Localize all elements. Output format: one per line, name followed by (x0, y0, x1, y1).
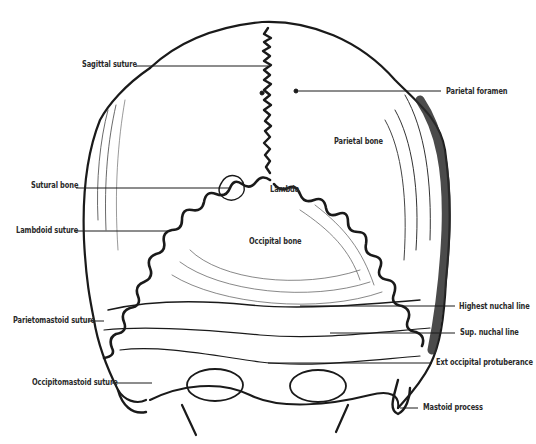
label-sagittal-suture: Sagittal suture (82, 59, 137, 69)
skull-diagram: Sagittal suture Parietal foramen Parieta… (0, 0, 536, 444)
label-highest-nuchal-line: Highest nuchal line (459, 301, 530, 311)
label-parietomastoid-suture: Parietomastoid suture (13, 315, 95, 325)
label-lambdoid-suture: Lambdoid suture (16, 225, 78, 235)
label-lambda: Lambda (270, 184, 299, 194)
label-parietal-foramen: Parietal foramen (446, 86, 508, 96)
label-sup-nuchal-line: Sup. nuchal line (460, 327, 519, 337)
label-mastoid-process: Mastoid process (423, 402, 483, 412)
label-ext-occipital-protuberance: Ext occipital protuberance (436, 357, 533, 367)
label-sutural-bone: Sutural bone (31, 180, 78, 190)
label-parietal-bone: Parietal bone (334, 136, 383, 146)
label-occipitomastoid-suture: Occipitomastoid suture (32, 377, 118, 387)
label-occipital-bone: Occipital bone (249, 236, 301, 246)
